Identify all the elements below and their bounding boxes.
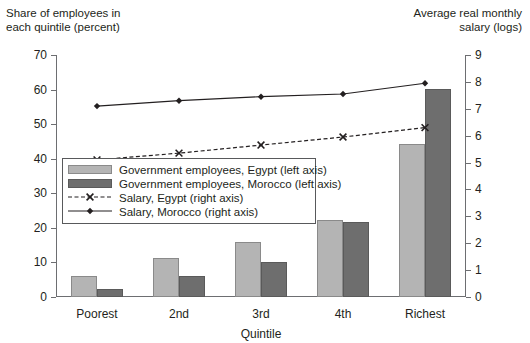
right-tick-mark — [466, 82, 471, 83]
left-tick-label: 40 — [34, 152, 47, 166]
series-line — [97, 128, 425, 160]
legend-item-label: Government employees, Morocco (left axis… — [119, 178, 341, 190]
legend-item: Government employees, Egypt (left axis) — [68, 163, 310, 176]
series-marker-diamond — [340, 91, 346, 97]
right-tick-label: 4 — [475, 182, 482, 196]
right-tick-mark — [466, 55, 471, 56]
right-tick-label: 8 — [475, 75, 482, 89]
left-tick-mark — [51, 297, 56, 298]
series-marker-diamond — [422, 80, 428, 86]
right-tick-mark — [466, 163, 471, 164]
x-tick-label: 3rd — [252, 307, 269, 321]
left-axis-title: Share of employees in each quintile (per… — [6, 6, 176, 34]
right-tick-label: 9 — [475, 48, 482, 62]
legend-item: Government employees, Morocco (left axis… — [68, 177, 310, 190]
left-tick-label: 60 — [34, 83, 47, 97]
right-tick-label: 0 — [475, 290, 482, 304]
chart-container: Share of employees in each quintile (per… — [0, 0, 530, 343]
x-axis-title: Quintile — [56, 327, 466, 341]
right-tick-mark — [466, 109, 471, 110]
right-axis-title: Average real monthly salary (logs) — [342, 6, 522, 34]
left-tick-label: 70 — [34, 48, 47, 62]
right-tick-label: 6 — [475, 129, 482, 143]
series-marker-diamond — [94, 103, 100, 109]
right-tick-label: 1 — [475, 263, 482, 277]
right-tick-mark — [466, 189, 471, 190]
x-tick-label: 2nd — [169, 307, 189, 321]
left-tick-label: 0 — [40, 290, 47, 304]
left-tick-label: 20 — [34, 221, 47, 235]
right-tick-label: 7 — [475, 102, 482, 116]
legend-key-swatch-icon — [68, 179, 112, 188]
legend-item: Salary, Morocco (right axis) — [68, 205, 310, 218]
legend-item-label: Salary, Morocco (right axis) — [119, 206, 258, 218]
legend-key-line-icon — [68, 193, 112, 202]
legend-key-swatch-icon — [68, 165, 112, 174]
legend-key-line-icon — [68, 207, 112, 216]
right-tick-mark — [466, 216, 471, 217]
series-marker-diamond — [258, 93, 264, 99]
left-tick-label: 10 — [34, 255, 47, 269]
x-tick-label: Richest — [405, 307, 445, 321]
left-tick-label: 30 — [34, 186, 47, 200]
right-tick-mark — [466, 297, 471, 298]
legend-item-label: Government employees, Egypt (left axis) — [119, 164, 327, 176]
legend-item-label: Salary, Egypt (right axis) — [119, 192, 243, 204]
series-marker-x — [258, 142, 265, 149]
right-tick-mark — [466, 270, 471, 271]
x-tick-label: 4th — [335, 307, 352, 321]
right-tick-label: 2 — [475, 236, 482, 250]
chart-legend: Government employees, Egypt (left axis)G… — [62, 158, 316, 224]
right-tick-label: 3 — [475, 209, 482, 223]
series-marker-diamond — [176, 98, 182, 104]
right-tick-mark — [466, 243, 471, 244]
right-tick-label: 5 — [475, 156, 482, 170]
legend-item: Salary, Egypt (right axis) — [68, 191, 310, 204]
right-tick-mark — [466, 136, 471, 137]
left-tick-label: 50 — [34, 117, 47, 131]
x-tick-label: Poorest — [76, 307, 117, 321]
